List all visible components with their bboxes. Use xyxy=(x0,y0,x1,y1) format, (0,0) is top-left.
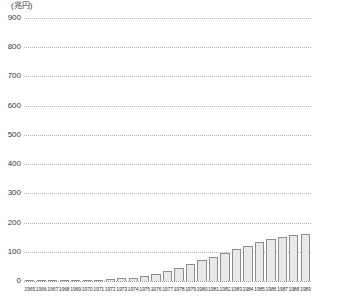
bar-slot xyxy=(116,18,127,281)
bar-1980 xyxy=(197,260,206,281)
bar-chart: (兆円) 9008007006005004003002001000 196519… xyxy=(0,0,356,303)
bar-slot xyxy=(288,18,299,281)
x-tick-label-1977: 1977 xyxy=(162,285,173,297)
y-tick-label-0: 0 xyxy=(0,277,24,285)
x-tick-label-1966: 1966 xyxy=(35,285,46,297)
x-tick-label-1978: 1978 xyxy=(173,285,184,297)
bar-1984 xyxy=(243,246,252,281)
bar-1967 xyxy=(48,280,57,281)
bar-series xyxy=(24,18,311,281)
x-tick-label-1974: 1974 xyxy=(127,285,138,297)
bar-1968 xyxy=(60,280,69,281)
x-tick-label-1971: 1971 xyxy=(93,285,104,297)
x-tick-label-1979: 1979 xyxy=(185,285,196,297)
bar-1989 xyxy=(301,234,310,281)
bar-slot xyxy=(208,18,219,281)
y-tick-label-100: 100 xyxy=(0,248,24,256)
x-tick-label-1982: 1982 xyxy=(219,285,230,297)
bar-1977 xyxy=(163,271,172,281)
x-tick-label-1967: 1967 xyxy=(47,285,58,297)
bar-1987 xyxy=(278,237,287,281)
bar-slot xyxy=(231,18,242,281)
bar-slot xyxy=(300,18,311,281)
x-tick-label-1970: 1970 xyxy=(81,285,92,297)
bar-1985 xyxy=(255,242,264,281)
y-tick-label-200: 200 xyxy=(0,219,24,227)
x-axis-tick-labels: 1965196619671968196919701971197219731974… xyxy=(24,285,311,297)
x-tick-label-1988: 1988 xyxy=(288,285,299,297)
bar-1971 xyxy=(94,280,103,281)
bar-1970 xyxy=(83,280,92,281)
bar-slot xyxy=(70,18,81,281)
bar-1966 xyxy=(37,280,46,281)
bar-1972 xyxy=(106,279,115,281)
x-tick-label-1989: 1989 xyxy=(300,285,311,297)
bar-slot xyxy=(185,18,196,281)
bar-slot xyxy=(35,18,46,281)
bar-slot xyxy=(24,18,35,281)
y-tick-label-500: 500 xyxy=(0,131,24,139)
x-tick-label-1986: 1986 xyxy=(265,285,276,297)
x-tick-label-1976: 1976 xyxy=(150,285,161,297)
y-tick-label-900: 900 xyxy=(0,14,24,22)
bar-1974 xyxy=(129,278,138,281)
bar-1975 xyxy=(140,276,149,281)
bar-slot xyxy=(139,18,150,281)
bar-1979 xyxy=(186,264,195,281)
y-tick-label-300: 300 xyxy=(0,189,24,197)
bar-1978 xyxy=(174,268,183,281)
gridline-0 xyxy=(24,281,311,282)
bar-slot xyxy=(93,18,104,281)
y-axis-unit-label: (兆円) xyxy=(11,1,32,11)
bar-1983 xyxy=(232,249,241,281)
bar-1986 xyxy=(266,239,275,281)
bar-1976 xyxy=(151,274,160,281)
bar-slot xyxy=(162,18,173,281)
x-tick-label-1987: 1987 xyxy=(277,285,288,297)
bar-1981 xyxy=(209,257,218,281)
x-tick-label-1981: 1981 xyxy=(208,285,219,297)
x-tick-label-1969: 1969 xyxy=(70,285,81,297)
bar-1973 xyxy=(117,278,126,281)
bar-slot xyxy=(127,18,138,281)
bar-1988 xyxy=(289,235,298,281)
bar-slot xyxy=(254,18,265,281)
bar-slot xyxy=(277,18,288,281)
bar-slot xyxy=(242,18,253,281)
y-tick-label-800: 800 xyxy=(0,43,24,51)
bar-slot xyxy=(219,18,230,281)
bar-slot xyxy=(104,18,115,281)
x-tick-label-1984: 1984 xyxy=(242,285,253,297)
x-tick-label-1965: 1965 xyxy=(24,285,35,297)
x-tick-label-1968: 1968 xyxy=(58,285,69,297)
bar-1982 xyxy=(220,253,229,281)
bar-1965 xyxy=(25,280,34,281)
y-tick-label-400: 400 xyxy=(0,160,24,168)
bar-slot xyxy=(173,18,184,281)
x-tick-label-1983: 1983 xyxy=(231,285,242,297)
x-tick-label-1980: 1980 xyxy=(196,285,207,297)
bar-slot xyxy=(81,18,92,281)
x-tick-label-1975: 1975 xyxy=(139,285,150,297)
bar-1969 xyxy=(71,280,80,281)
y-tick-label-600: 600 xyxy=(0,102,24,110)
bar-slot xyxy=(150,18,161,281)
bar-slot xyxy=(47,18,58,281)
plot-area xyxy=(24,18,311,281)
y-tick-label-700: 700 xyxy=(0,72,24,80)
bar-slot xyxy=(58,18,69,281)
x-tick-label-1985: 1985 xyxy=(254,285,265,297)
x-tick-label-1973: 1973 xyxy=(116,285,127,297)
bar-slot xyxy=(196,18,207,281)
x-tick-label-1972: 1972 xyxy=(104,285,115,297)
bar-slot xyxy=(265,18,276,281)
